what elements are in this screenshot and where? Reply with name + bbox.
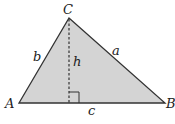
side-label-c: c	[88, 103, 96, 118]
altitude-label-h: h	[73, 54, 81, 69]
vertex-label-c: C	[63, 2, 73, 17]
vertex-label-b: B	[165, 96, 175, 111]
vertex-label-a: A	[4, 96, 14, 111]
side-label-b: b	[33, 49, 41, 64]
triangle-diagram: C A B b a c h	[0, 0, 175, 124]
side-label-a: a	[112, 43, 120, 58]
